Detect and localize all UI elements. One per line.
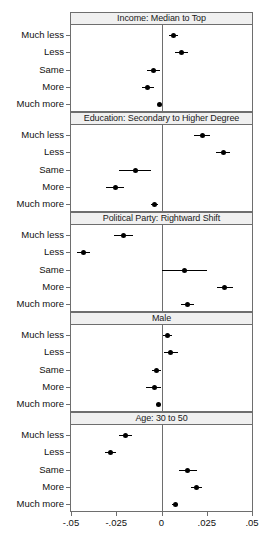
y-axis-tick — [66, 287, 70, 288]
point-estimate-marker — [173, 502, 178, 507]
y-axis-label: Less — [44, 247, 64, 257]
x-axis-tick — [207, 512, 208, 516]
x-axis-tick-label: 0 — [159, 517, 164, 528]
panel-3: Political Party: Rightward Shift — [70, 212, 253, 312]
y-axis-labels: Much lessLessSameMoreMuch more — [0, 225, 64, 312]
y-axis-label: More — [42, 82, 64, 92]
point-estimate-marker — [123, 433, 128, 438]
zero-reference-line — [162, 425, 163, 511]
y-axis-label: Same — [39, 265, 64, 275]
zero-reference-line — [162, 325, 163, 411]
y-axis-label: Much less — [21, 430, 64, 440]
point-estimate-marker — [165, 333, 170, 338]
panel-plot-area — [70, 425, 253, 512]
y-axis-label: Much less — [21, 330, 64, 340]
y-axis-tick — [66, 52, 70, 53]
x-axis-tick-label: -.05 — [63, 517, 79, 528]
y-axis-label: Much more — [16, 99, 64, 109]
x-axis-tick — [162, 512, 163, 516]
y-axis-tick — [66, 335, 70, 336]
y-axis-label: More — [42, 282, 64, 292]
panel-title-strip: Age: 30 to 50 — [70, 412, 253, 425]
x-axis-tick-label: .025 — [198, 517, 217, 528]
panel-title: Education: Secondary to Higher Degree — [84, 114, 239, 123]
point-estimate-marker — [121, 233, 126, 238]
panel-title: Male — [152, 314, 171, 323]
panel-title: Income: Median to Top — [117, 14, 206, 23]
panel-title: Political Party: Rightward Shift — [103, 214, 220, 223]
point-estimate-marker — [156, 402, 161, 407]
y-axis-tick — [66, 170, 70, 171]
y-axis-labels: Much lessLessSameMoreMuch more — [0, 25, 64, 112]
panel-1: Income: Median to Top — [70, 12, 253, 112]
coefficient-plot-figure: Income: Median to TopEducation: Secondar… — [0, 0, 264, 553]
zero-reference-line — [162, 225, 163, 311]
y-axis-tick — [66, 470, 70, 471]
y-axis-tick — [66, 204, 70, 205]
panel-plot-area — [70, 125, 253, 212]
y-axis-label: Less — [44, 447, 64, 457]
zero-reference-line — [162, 125, 163, 211]
y-axis-tick — [66, 87, 70, 88]
panel-5: Age: 30 to 50 — [70, 412, 253, 512]
point-estimate-marker — [157, 102, 162, 107]
panel-4: Male — [70, 312, 253, 412]
panel-title-strip: Income: Median to Top — [70, 12, 253, 25]
y-axis-labels: Much lessLessSameMoreMuch more — [0, 125, 64, 212]
y-axis-label: Less — [44, 347, 64, 357]
y-axis-label: Less — [44, 147, 64, 157]
y-axis-label: Much more — [16, 399, 64, 409]
panel-plot-area — [70, 225, 253, 312]
y-axis-tick — [66, 452, 70, 453]
y-axis-label: Same — [39, 165, 64, 175]
x-axis-tick — [116, 512, 117, 516]
panel-title: Age: 30 to 50 — [135, 414, 187, 423]
y-axis-tick — [66, 487, 70, 488]
y-axis-tick — [66, 35, 70, 36]
y-axis-label: Much less — [21, 30, 64, 40]
point-estimate-marker — [168, 350, 173, 355]
point-estimate-marker — [200, 133, 205, 138]
y-axis-tick — [66, 152, 70, 153]
x-axis-tick-label: .05 — [245, 517, 258, 528]
x-axis: -.05-.0250.025.05 — [70, 512, 253, 534]
point-estimate-marker — [152, 202, 157, 207]
y-axis-label: Much more — [16, 199, 64, 209]
panel-plot-area — [70, 325, 253, 412]
y-axis-label: Much less — [21, 130, 64, 140]
y-axis-label: More — [42, 182, 64, 192]
panel-plot-area — [70, 25, 253, 112]
y-axis-label: More — [42, 482, 64, 492]
panel-2: Education: Secondary to Higher Degree — [70, 112, 253, 212]
panel-title-strip: Political Party: Rightward Shift — [70, 212, 253, 225]
point-estimate-marker — [113, 185, 118, 190]
x-axis-tick — [71, 512, 72, 516]
y-axis-tick — [66, 370, 70, 371]
y-axis-tick — [66, 135, 70, 136]
y-axis-label: Much less — [21, 230, 64, 240]
y-axis-tick — [66, 352, 70, 353]
y-axis-label: Much more — [16, 299, 64, 309]
y-axis-tick — [66, 387, 70, 388]
y-axis-label: Less — [44, 47, 64, 57]
point-estimate-marker — [221, 150, 226, 155]
point-estimate-marker — [152, 385, 157, 390]
point-estimate-marker — [151, 68, 156, 73]
y-axis-tick — [66, 252, 70, 253]
y-axis-tick — [66, 235, 70, 236]
y-axis-tick — [66, 270, 70, 271]
panel-title-strip: Education: Secondary to Higher Degree — [70, 112, 253, 125]
point-estimate-marker — [179, 50, 184, 55]
y-axis-tick — [66, 435, 70, 436]
panel-title-strip: Male — [70, 312, 253, 325]
y-axis-label: More — [42, 382, 64, 392]
point-estimate-marker — [222, 285, 227, 290]
y-axis-tick — [66, 104, 70, 105]
y-axis-label: Much more — [16, 499, 64, 509]
y-axis-tick — [66, 187, 70, 188]
zero-reference-line — [162, 25, 163, 111]
point-estimate-marker — [185, 302, 190, 307]
x-axis-tick — [252, 512, 253, 516]
y-axis-tick — [66, 304, 70, 305]
point-estimate-marker — [171, 33, 176, 38]
